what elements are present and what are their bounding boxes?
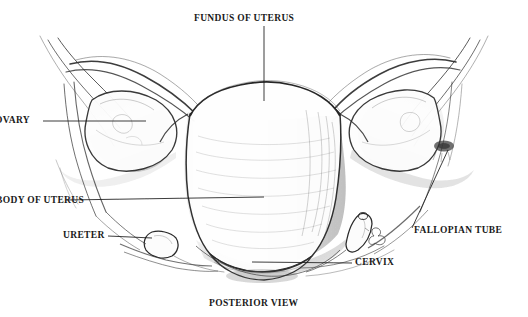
label-ovary: OVARY [0, 116, 30, 126]
label-ureter: URETER [63, 231, 105, 241]
label-body-of-uterus: BODY OF UTERUS [0, 196, 84, 206]
uterus-drawing-group [40, 26, 488, 283]
uterus-anatomical-drawing [0, 0, 528, 317]
label-fallopian-tube: FALLOPIAN TUBE [414, 226, 502, 236]
right-ovary-shape [349, 90, 441, 171]
figure-canvas: FUNDUS OF UTERUS OVARY BODY OF UTERUS UR… [0, 0, 528, 317]
label-cervix: CERVIX [355, 258, 394, 268]
caption-posterior-view: POSTERIOR VIEW [209, 299, 298, 309]
label-fundus-of-uterus: FUNDUS OF UTERUS [194, 14, 294, 24]
left-ovary-shape [85, 91, 177, 171]
